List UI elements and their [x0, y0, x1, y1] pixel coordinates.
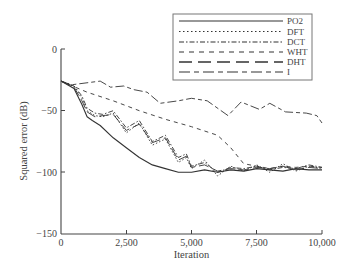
line-chart: 0 −50 −100 −150 Squared error (dB) 0 2,5…: [0, 0, 354, 276]
legend: PO2 DFT DCT WHT DHT I: [173, 14, 312, 80]
x-tick-label: 7,500: [245, 237, 268, 248]
x-axis: 0 2,500 5,000 7,500 10,000 Iteration: [59, 230, 336, 260]
y-tick-label: 0: [52, 44, 57, 55]
legend-label: WHT: [287, 47, 308, 57]
x-tick-label: 5,000: [180, 237, 203, 248]
y-tick-label: −50: [41, 105, 57, 116]
legend-label: DCT: [287, 37, 306, 47]
series-line-dft: [61, 81, 322, 176]
x-axis-title: Iteration: [174, 249, 210, 260]
legend-label: PO2: [287, 16, 303, 26]
y-tick-label: −150: [36, 228, 57, 239]
plot-area: [61, 81, 322, 176]
legend-label: DFT: [287, 27, 305, 37]
y-axis: 0 −50 −100 −150 Squared error (dB): [18, 44, 65, 239]
legend-label: I: [287, 67, 290, 77]
y-axis-title: Squared error (dB): [18, 101, 30, 181]
legend-label: DHT: [287, 57, 306, 67]
x-tick-label: 0: [59, 237, 64, 248]
x-tick-label: 2,500: [115, 237, 138, 248]
y-tick-label: −100: [36, 167, 57, 178]
x-tick-label: 10,000: [308, 237, 336, 248]
